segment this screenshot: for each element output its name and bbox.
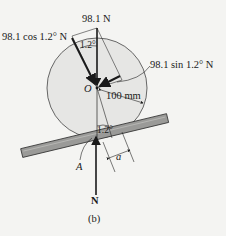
offset-line-1 bbox=[103, 142, 115, 172]
center-point bbox=[96, 87, 99, 90]
sin-component-label: 98.1 sin 1.2° N bbox=[150, 60, 213, 71]
angle-top-label: 1.2° bbox=[80, 41, 96, 51]
offset-label: a bbox=[116, 152, 121, 163]
contact-point-label: A bbox=[76, 162, 82, 173]
figure-caption: (b) bbox=[88, 214, 100, 225]
center-label: O bbox=[84, 84, 92, 95]
weight-label: 98.1 N bbox=[82, 14, 111, 25]
offset-line-2 bbox=[122, 132, 134, 162]
angle-bottom-label: 1.2° bbox=[97, 126, 113, 136]
radius-label: 100 mm bbox=[106, 91, 141, 102]
normal-force-label: N bbox=[91, 196, 99, 207]
cos-component-label: 98.1 cos 1.2° N bbox=[2, 32, 67, 43]
free-body-diagram: 98.1 N 98.1 cos 1.2° N 98.1 sin 1.2° N O… bbox=[0, 0, 226, 236]
